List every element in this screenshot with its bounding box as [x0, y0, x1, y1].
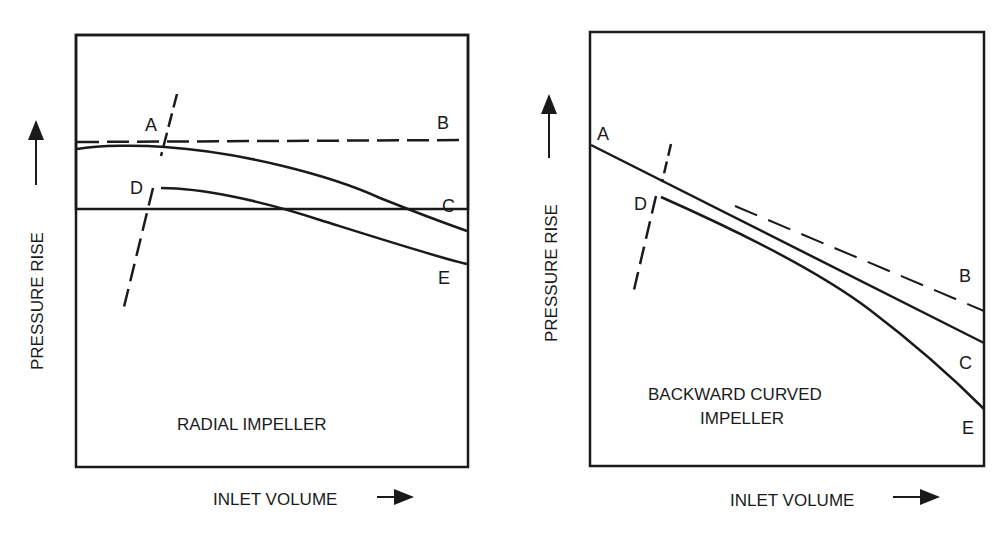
right-panel-title-line1: BACKWARD CURVED	[648, 385, 822, 404]
left-label-b: B	[437, 113, 449, 133]
left-x-axis-label: INLET VOLUME	[213, 490, 337, 509]
left-surge-line-lower	[123, 188, 153, 311]
right-curve-d-e	[661, 197, 984, 409]
left-label-d: D	[130, 178, 143, 198]
right-label-a: A	[597, 124, 609, 144]
right-y-axis-label: PRESSURE RISE	[542, 204, 561, 342]
right-surge-line-upper	[662, 144, 671, 182]
right-line-a-b-dashed	[735, 206, 984, 311]
left-label-a: A	[145, 115, 157, 135]
right-x-axis-label: INLET VOLUME	[730, 491, 854, 510]
left-panel-radial-impeller: A B C D E RADIAL IMPELLER PRESSURE RISE …	[28, 35, 468, 509]
right-panel-backward-curved-impeller: A B C D E BACKWARD CURVED IMPELLER PRESS…	[542, 32, 984, 510]
diagram-canvas: A B C D E RADIAL IMPELLER PRESSURE RISE …	[0, 0, 1008, 535]
left-y-axis-label: PRESSURE RISE	[28, 232, 47, 370]
right-label-c: C	[959, 353, 972, 373]
right-label-d: D	[634, 194, 647, 214]
left-label-e: E	[438, 268, 450, 288]
right-curve-a-c	[591, 145, 984, 343]
left-panel-title: RADIAL IMPELLER	[177, 415, 327, 434]
left-curve-d-e	[161, 188, 467, 264]
right-label-b: B	[959, 266, 971, 286]
right-panel-title-line2: IMPELLER	[700, 409, 784, 428]
left-label-c: C	[442, 196, 455, 216]
right-label-e: E	[962, 418, 974, 438]
left-line-a-b-dashed	[77, 140, 467, 142]
